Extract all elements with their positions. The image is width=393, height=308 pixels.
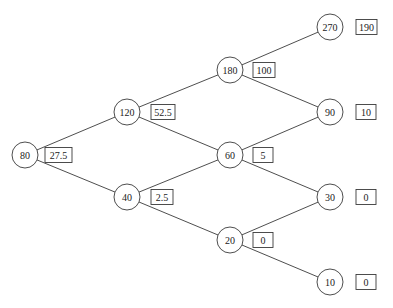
node-price-label: 40	[122, 192, 132, 203]
tree-node-n3c: 300	[317, 184, 376, 210]
tree-edge-n2d-n3d	[242, 245, 318, 277]
tree-edge-n2m-n3c	[242, 160, 318, 192]
tree-edge-n0-n1d	[37, 160, 115, 192]
tree-node-n3b: 9010	[317, 99, 376, 125]
node-option-value: 0	[364, 192, 369, 203]
tree-edge-n2u-n3a	[242, 32, 318, 65]
node-option-value: 190	[359, 22, 374, 33]
node-price-label: 60	[225, 150, 235, 161]
node-price-label: 270	[323, 22, 338, 33]
node-price-label: 90	[325, 107, 335, 118]
node-option-value: 5	[261, 150, 266, 161]
nodes-layer: 8027.512052.5402.51801006052002701909010…	[12, 14, 377, 295]
tree-node-n2u: 180100	[217, 57, 275, 83]
tree-node-n3a: 270190	[317, 14, 377, 40]
tree-edge-n1d-n2m	[139, 160, 218, 192]
node-price-label: 180	[223, 65, 238, 76]
tree-edge-n1u-n2u	[139, 75, 218, 107]
tree-edge-n0-n1u	[37, 117, 115, 150]
node-option-value: 52.5	[154, 107, 172, 118]
tree-edge-n2m-n3b	[242, 117, 318, 150]
node-option-value: 27.5	[50, 150, 68, 161]
node-option-value: 2.5	[156, 192, 169, 203]
node-price-label: 10	[325, 277, 335, 288]
tree-node-n1d: 402.5	[114, 184, 173, 210]
node-price-label: 80	[20, 150, 30, 161]
node-option-value: 10	[361, 107, 371, 118]
node-option-value: 100	[257, 65, 272, 76]
tree-edge-n2u-n3b	[242, 75, 318, 107]
tree-node-n0: 8027.5	[12, 142, 72, 168]
tree-node-n1u: 12052.5	[114, 99, 175, 125]
node-price-label: 120	[120, 107, 135, 118]
edges-layer	[37, 32, 318, 277]
tree-node-n2d: 200	[217, 227, 273, 253]
node-price-label: 20	[225, 235, 235, 246]
tree-edge-n2d-n3c	[242, 202, 318, 235]
node-option-value: 0	[364, 277, 369, 288]
tree-node-n3d: 100	[317, 269, 376, 295]
node-option-value: 0	[261, 235, 266, 246]
tree-node-n2m: 605	[217, 142, 273, 168]
node-price-label: 30	[325, 192, 335, 203]
tree-edge-n1d-n2d	[139, 202, 218, 235]
tree-edge-n1u-n2m	[139, 117, 218, 150]
binomial-tree-diagram: 8027.512052.5402.51801006052002701909010…	[0, 0, 393, 308]
